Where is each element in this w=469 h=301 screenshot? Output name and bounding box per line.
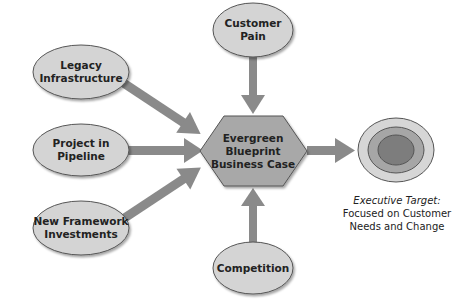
arrow-legacy <box>113 70 208 144</box>
label-new-framework-investments: New Framework Investments <box>33 215 128 241</box>
label-line: Legacy <box>39 59 122 72</box>
label-line: Business Case <box>211 158 295 171</box>
label-legacy-infrastructure: Legacy Infrastructure <box>39 59 122 85</box>
label-line: Evergreen <box>211 132 295 145</box>
label-line: Pain <box>225 30 282 43</box>
label-line: Customer <box>225 17 282 30</box>
label-line: Pipeline <box>53 150 110 163</box>
arrow-to-target <box>307 138 355 163</box>
target-icon <box>358 118 434 182</box>
arrow-competition <box>241 188 265 244</box>
arrow-pipeline <box>128 138 203 163</box>
label-project-in-pipeline: Project in Pipeline <box>53 137 110 163</box>
caption-line: Needs and Change <box>343 220 451 233</box>
label-customer-pain: Customer Pain <box>225 17 282 43</box>
label-line: Blueprint <box>211 145 295 158</box>
label-competition: Competition <box>217 262 289 275</box>
caption-executive-target: Executive Target: Focused on Customer Ne… <box>343 194 451 233</box>
label-line: Investments <box>33 228 128 241</box>
label-line: Competition <box>217 262 289 275</box>
label-line: Project in <box>53 137 110 150</box>
caption-line: Focused on Customer <box>343 207 451 220</box>
caption-title: Executive Target: <box>343 194 451 207</box>
label-business-case: Evergreen Blueprint Business Case <box>211 132 295 171</box>
label-line: New Framework <box>33 215 128 228</box>
label-line: Infrastructure <box>39 72 122 85</box>
arrow-customer-pain <box>241 57 265 114</box>
